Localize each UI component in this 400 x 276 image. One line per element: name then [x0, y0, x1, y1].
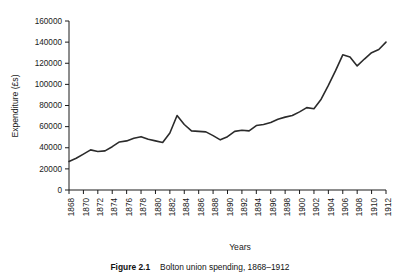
- x-tick-label: 1868: [67, 198, 76, 217]
- x-tick-label: 1872: [96, 198, 105, 217]
- y-tick-label: 160000: [35, 17, 63, 26]
- y-axis-title: Expenditure (£s): [10, 74, 20, 137]
- x-tick-label: 1900: [298, 198, 307, 217]
- y-tick-label: 0: [57, 186, 62, 195]
- figure-caption-text: Bolton union spending, 1868–1912: [160, 262, 289, 272]
- x-tick-label: 1912: [384, 198, 393, 217]
- x-tick-label: 1896: [269, 198, 278, 217]
- x-axis-ticks: 1868187018721874187618781880188218841886…: [67, 190, 393, 216]
- figure-container: 0200004000060000800001000001200001400001…: [0, 0, 400, 276]
- y-tick-label: 60000: [39, 122, 62, 131]
- y-tick-label: 80000: [39, 101, 62, 110]
- x-axis-title: Years: [229, 242, 251, 252]
- x-tick-label: 1880: [154, 198, 163, 217]
- chart-plot-area: 0200004000060000800001000001200001400001…: [0, 0, 400, 258]
- x-tick-label: 1904: [327, 198, 336, 217]
- figure-caption: Figure 2.1Bolton union spending, 1868–19…: [0, 262, 400, 272]
- figure-caption-label: Figure 2.1: [110, 262, 150, 272]
- expenditure-series-line: [69, 42, 386, 161]
- y-tick-label: 120000: [35, 59, 63, 68]
- x-tick-label: 1874: [110, 198, 119, 217]
- x-tick-label: 1888: [211, 198, 220, 217]
- x-tick-label: 1892: [240, 198, 249, 217]
- line-chart: 0200004000060000800001000001200001400001…: [0, 0, 400, 258]
- x-tick-label: 1876: [125, 198, 134, 217]
- y-tick-label: 20000: [39, 165, 62, 174]
- y-axis-ticks: 0200004000060000800001000001200001400001…: [35, 17, 69, 195]
- x-tick-label: 1908: [355, 198, 364, 217]
- x-tick-label: 1884: [182, 198, 191, 217]
- x-tick-label: 1882: [168, 198, 177, 217]
- x-tick-label: 1906: [341, 198, 350, 217]
- y-tick-label: 100000: [35, 80, 63, 89]
- x-tick-label: 1878: [139, 198, 148, 217]
- x-tick-label: 1902: [312, 198, 321, 217]
- x-tick-label: 1870: [82, 198, 91, 217]
- x-tick-label: 1890: [226, 198, 235, 217]
- y-tick-label: 140000: [35, 38, 63, 47]
- x-tick-label: 1898: [283, 198, 292, 217]
- x-tick-label: 1910: [370, 198, 379, 217]
- y-tick-label: 40000: [39, 143, 62, 152]
- x-tick-label: 1886: [197, 198, 206, 217]
- x-tick-label: 1894: [254, 198, 263, 217]
